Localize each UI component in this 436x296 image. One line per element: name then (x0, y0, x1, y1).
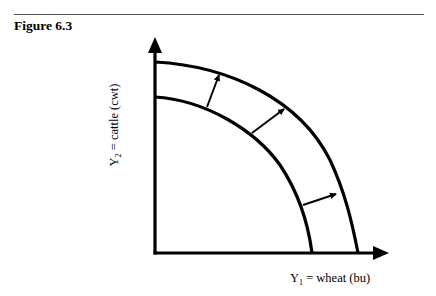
y-axis-label: Y2 = cattle (cwt) (107, 84, 123, 167)
y-axis-subscript: 2 (114, 153, 123, 157)
inner-curve (155, 97, 312, 253)
y-axis (148, 37, 162, 255)
x-axis (154, 246, 390, 260)
x-axis-var: Y (290, 271, 299, 285)
shift-arrow-3-icon (303, 194, 336, 205)
y-axis-desc: = cattle (cwt) (107, 84, 121, 154)
x-axis-arrowhead-icon (373, 246, 389, 260)
ppf-diagram (0, 0, 436, 296)
y-axis-arrowhead-icon (148, 37, 162, 53)
x-axis-label: Y1 = wheat (bu) (290, 271, 370, 287)
y-axis-var: Y (107, 157, 121, 166)
shift-arrow-1-icon (207, 75, 219, 107)
outer-curve (155, 62, 358, 253)
shift-arrow-2-icon (252, 109, 284, 133)
x-axis-desc: = wheat (bu) (303, 271, 370, 285)
